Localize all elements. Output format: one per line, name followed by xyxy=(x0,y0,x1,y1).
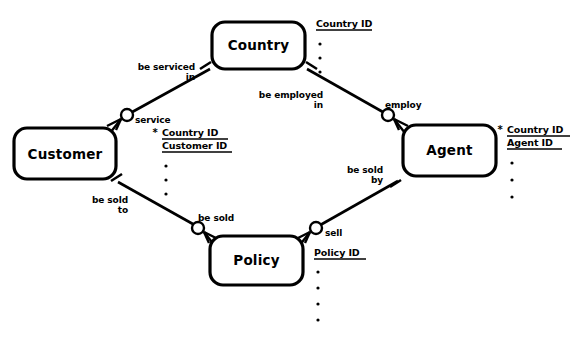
attribute-agent-country-id: Country ID xyxy=(507,124,563,135)
entity-label-policy: Policy xyxy=(233,252,279,268)
attribute-ellipsis-dot xyxy=(164,164,167,167)
entity-label-agent: Agent xyxy=(426,142,473,158)
attribute-country-country-id: Country ID xyxy=(316,18,372,29)
relationship-line-customer-policy xyxy=(118,182,200,228)
relationship-label-be-serviced: be serviced xyxy=(138,62,195,72)
entity-customer[interactable]: Customer xyxy=(14,128,116,179)
attribute-ellipsis-dot xyxy=(316,286,319,289)
attribute-agent-agent-id: Agent ID xyxy=(507,137,553,148)
attribute-ellipsis-dot xyxy=(164,192,167,195)
cardinality-optional-circle-policy-sell xyxy=(310,222,322,234)
entity-label-customer: Customer xyxy=(28,146,103,162)
entity-policy[interactable]: Policy xyxy=(210,236,303,285)
attribute-policy-policy-id: Policy ID xyxy=(314,247,360,258)
attribute-list-country: Country ID xyxy=(316,18,372,74)
entity-label-country: Country xyxy=(228,37,290,53)
attribute-customer-customer-id: Customer ID xyxy=(162,140,227,151)
relationship-label-in-2: in xyxy=(314,100,323,110)
relationship-label-be-employed: be employed xyxy=(259,90,323,100)
er-diagram-svg: Customer Country Agent Policy be service… xyxy=(0,0,575,337)
relationship-label-be-sold: be sold xyxy=(198,213,234,223)
relationship-line-customer-country xyxy=(125,69,210,116)
attribute-ellipsis-dot xyxy=(316,318,319,321)
attribute-ellipsis-dot xyxy=(316,270,319,273)
entity-country[interactable]: Country xyxy=(212,22,305,69)
relationship-label-by: by xyxy=(371,175,383,185)
relationship-line-policy-agent xyxy=(315,181,398,228)
cardinality-optional-circle-customer-service xyxy=(121,109,133,121)
relationship-label-employ: employ xyxy=(385,100,422,110)
attribute-ellipsis-dot xyxy=(318,70,321,73)
attribute-ellipsis-dot xyxy=(318,56,321,59)
relationship-label-be-sold-to: be sold xyxy=(92,195,128,205)
attribute-mandatory-star-agent: * xyxy=(497,124,503,135)
attribute-list-customer: * Country ID Customer ID xyxy=(152,127,232,196)
cardinality-optional-circle-policy-besold xyxy=(192,222,204,234)
relationship-label-to: to xyxy=(118,205,128,215)
entity-agent[interactable]: Agent xyxy=(403,125,496,176)
er-diagram-canvas: Customer Country Agent Policy be service… xyxy=(0,0,575,337)
attribute-list-agent: * Country ID Agent ID xyxy=(497,124,570,199)
relationship-label-in-1: in xyxy=(186,72,195,82)
attribute-ellipsis-dot xyxy=(316,302,319,305)
relationship-label-sell: sell xyxy=(325,228,342,238)
attribute-ellipsis-dot xyxy=(510,195,513,198)
cardinality-optional-circle-agent-employ xyxy=(382,109,394,121)
attribute-list-policy: Policy ID xyxy=(314,247,366,322)
relationship-label-service: service xyxy=(135,115,171,125)
attribute-customer-country-id: Country ID xyxy=(162,127,218,138)
relationship-label-be-sold-by: be sold xyxy=(347,165,383,175)
attribute-ellipsis-dot xyxy=(164,178,167,181)
attribute-mandatory-star-customer: * xyxy=(152,127,158,138)
relationship-policy-agent[interactable] xyxy=(296,180,401,246)
attribute-ellipsis-dot xyxy=(510,161,513,164)
attribute-ellipsis-dot xyxy=(318,42,321,45)
attribute-ellipsis-dot xyxy=(510,178,513,181)
